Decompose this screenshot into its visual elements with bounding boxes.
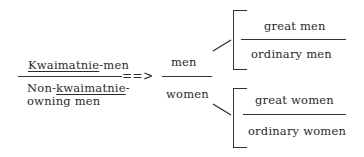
upper-divider — [241, 39, 346, 40]
ordinary-men: ordinary men — [251, 48, 332, 61]
lower-divider — [243, 114, 346, 115]
ordinary-women: ordinary women — [248, 125, 346, 138]
great-women: great women — [255, 94, 334, 107]
lower-bracket — [233, 88, 234, 148]
upper-bracket — [233, 10, 234, 70]
great-men: great men — [264, 20, 326, 33]
